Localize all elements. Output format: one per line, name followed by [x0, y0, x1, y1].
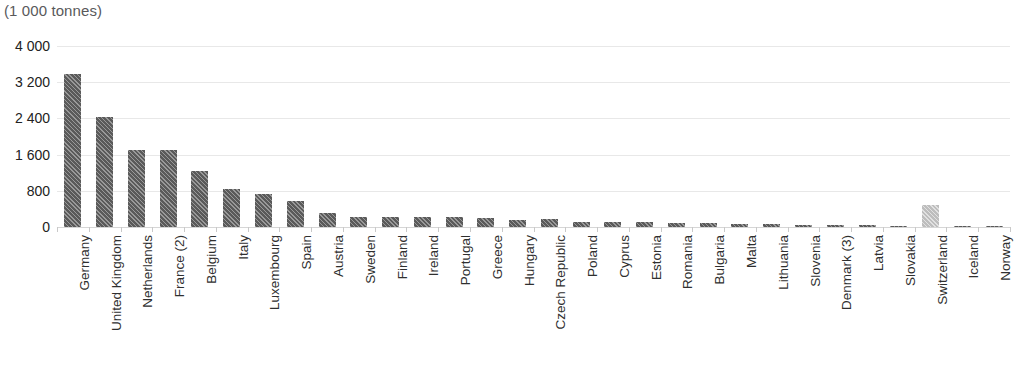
x-axis-label: United Kingdom — [110, 235, 124, 331]
x-axis-label: Finland — [396, 235, 410, 279]
bar — [255, 194, 272, 227]
x-tick — [470, 227, 471, 232]
bar — [319, 213, 336, 227]
x-tick — [883, 227, 884, 232]
x-axis-label: Italy — [237, 235, 251, 260]
x-axis-label: Hungary — [523, 235, 537, 286]
bar — [64, 74, 81, 227]
y-tick-label: 800 — [2, 184, 50, 198]
x-tick — [502, 227, 503, 232]
x-tick — [343, 227, 344, 232]
x-tick — [311, 227, 312, 232]
x-tick — [375, 227, 376, 232]
x-tick — [597, 227, 598, 232]
x-tick — [946, 227, 947, 232]
x-axis-label: Malta — [745, 235, 759, 268]
x-tick — [216, 227, 217, 232]
x-tick — [121, 227, 122, 232]
x-tick — [438, 227, 439, 232]
x-tick — [629, 227, 630, 232]
bar — [96, 117, 113, 227]
x-axis-label: Luxembourg — [268, 235, 282, 310]
x-tick — [915, 227, 916, 232]
x-axis-label: Norway — [999, 235, 1013, 281]
x-tick — [661, 227, 662, 232]
x-axis-label: Belgium — [205, 235, 219, 284]
bar — [223, 189, 240, 227]
x-tick — [57, 227, 58, 232]
x-axis-label: France (2) — [173, 235, 187, 297]
bars-layer — [57, 46, 1010, 227]
y-tick-label: 1 600 — [2, 148, 50, 162]
bar — [160, 150, 177, 227]
bar — [287, 201, 304, 227]
x-axis-label: Lithuania — [777, 235, 791, 290]
y-tick-label: 3 200 — [2, 75, 50, 89]
x-tick — [184, 227, 185, 232]
bar — [541, 219, 558, 227]
x-axis-label: Spain — [300, 235, 314, 270]
x-axis-label: Ireland — [427, 235, 441, 276]
x-tick — [851, 227, 852, 232]
x-tick — [534, 227, 535, 232]
x-axis-label: Slovakia — [904, 235, 918, 286]
chart-page: (1 000 tonnes) 08001 6002 4003 2004 000 … — [0, 0, 1018, 366]
bar — [477, 218, 494, 227]
x-axis-label: Slovenia — [809, 235, 823, 287]
bar — [922, 205, 939, 227]
x-tick — [788, 227, 789, 232]
x-axis-label: Poland — [586, 235, 600, 277]
y-tick-label: 2 400 — [2, 111, 50, 125]
x-tick — [978, 227, 979, 232]
x-axis-label: Netherlands — [141, 235, 155, 308]
x-tick — [819, 227, 820, 232]
x-tick — [692, 227, 693, 232]
x-tick — [1010, 227, 1011, 232]
bar — [414, 217, 431, 227]
x-tick — [89, 227, 90, 232]
x-axis-label: Germany — [78, 235, 92, 291]
x-axis-label: Cyprus — [618, 235, 632, 278]
x-tick — [279, 227, 280, 232]
bar — [382, 217, 399, 227]
bar — [128, 150, 145, 227]
x-tick — [152, 227, 153, 232]
x-tick — [724, 227, 725, 232]
bar — [350, 217, 367, 227]
y-axis: 08001 6002 4003 2004 000 — [0, 46, 50, 227]
x-tick — [756, 227, 757, 232]
y-tick-label: 0 — [2, 220, 50, 234]
x-axis-label: Latvia — [872, 235, 886, 271]
x-axis-label: Bulgaria — [713, 235, 727, 285]
x-axis-label: Iceland — [967, 235, 981, 279]
x-axis-label: Sweden — [364, 235, 378, 284]
x-tick — [565, 227, 566, 232]
x-axis-label: Austria — [332, 235, 346, 277]
x-tick — [248, 227, 249, 232]
bar — [509, 220, 526, 227]
x-axis-label: Estonia — [650, 235, 664, 280]
x-axis-label: Portugal — [459, 235, 473, 285]
bar — [191, 171, 208, 227]
x-axis-label: Greece — [491, 235, 505, 279]
bar — [446, 217, 463, 227]
x-axis-label: Switzerland — [936, 235, 950, 305]
y-tick-label: 4 000 — [2, 39, 50, 53]
x-axis-label: Czech Republic — [554, 235, 568, 330]
unit-caption: (1 000 tonnes) — [4, 2, 102, 19]
x-tick — [406, 227, 407, 232]
x-axis-label: Denmark (3) — [840, 235, 854, 310]
x-axis-label: Romania — [681, 235, 695, 289]
x-axis: GermanyUnited KingdomNetherlandsFrance (… — [57, 227, 1010, 366]
